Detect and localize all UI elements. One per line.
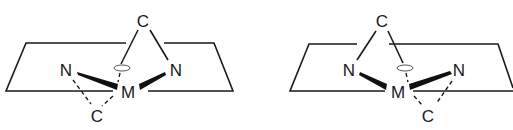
- right-bond-c-n: [357, 31, 376, 60]
- right-atom-bottom-c: C: [422, 107, 434, 126]
- left-wedge-n-m: [77, 72, 118, 90]
- right-wedge-n-m: [359, 72, 387, 90]
- left-atom-left-n: N: [60, 61, 72, 80]
- left-atom-metal: M: [121, 83, 135, 102]
- right-bond-c-m: [388, 31, 403, 63]
- right-atom-left-n: N: [343, 61, 355, 80]
- right-atom-top-c: C: [376, 12, 388, 31]
- right-complex: C N N M C: [290, 12, 513, 126]
- left-atom-right-n: N: [170, 61, 182, 80]
- left-rotation-ellipse: [114, 65, 130, 71]
- right-bond-m-hidden: [406, 73, 408, 82]
- right-bond-m-c: [414, 96, 423, 106]
- left-bond-c-m: [121, 30, 138, 64]
- left-wedge-m-n: [139, 72, 166, 90]
- right-rotation-ellipse: [397, 65, 413, 71]
- left-bond-m-c: [102, 96, 113, 106]
- left-bond-c-n: [150, 30, 168, 60]
- left-plane: [6, 43, 233, 91]
- left-atom-bottom-c: C: [91, 107, 103, 126]
- right-wedge-m-n: [409, 71, 452, 90]
- left-bond-m-hidden: [118, 73, 120, 82]
- right-atom-metal: M: [391, 83, 405, 102]
- left-atom-top-c: C: [137, 12, 149, 31]
- right-bond-n-c: [436, 81, 452, 104]
- left-bond-n-c: [73, 80, 91, 104]
- left-complex: C N N M C: [6, 12, 233, 126]
- diagram-canvas: C N N M C C N N M C: [0, 0, 513, 130]
- right-atom-right-n: N: [453, 61, 465, 80]
